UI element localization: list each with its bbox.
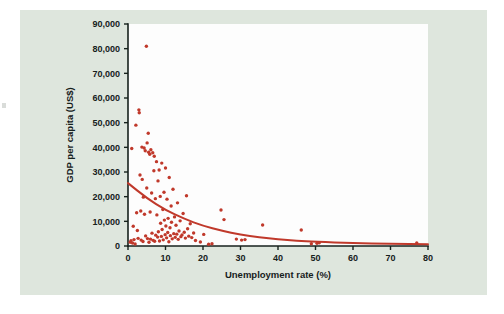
data-point: [261, 223, 264, 226]
data-point: [168, 176, 171, 179]
x-tick-label: 80: [423, 253, 433, 263]
scatter-chart: 010,00020,00030,00040,00050,00060,00070,…: [0, 0, 504, 314]
data-point: [183, 230, 186, 233]
data-point: [164, 166, 167, 169]
data-point: [132, 225, 135, 228]
data-point: [168, 226, 171, 229]
data-point: [174, 236, 177, 239]
data-point: [155, 160, 158, 163]
x-tick-label: 20: [198, 253, 208, 263]
data-point: [189, 222, 192, 225]
x-tick-label: 70: [385, 253, 395, 263]
data-point: [152, 169, 155, 172]
data-point: [165, 236, 168, 239]
data-point: [148, 210, 151, 213]
data-points: [129, 45, 419, 246]
data-point: [184, 236, 187, 239]
data-point: [222, 218, 225, 221]
data-point: [158, 239, 161, 242]
data-point: [170, 221, 173, 224]
data-point: [145, 45, 148, 48]
data-point: [135, 211, 138, 214]
data-point: [177, 229, 180, 232]
data-point: [132, 238, 135, 241]
data-point: [171, 237, 174, 240]
data-point: [137, 108, 140, 111]
x-tick-labels: 01020304050607080: [125, 253, 433, 263]
data-point: [240, 238, 243, 241]
data-point: [165, 197, 168, 200]
data-point: [185, 194, 188, 197]
y-tick-label: 10,000: [92, 217, 120, 227]
y-tick-label: 0: [115, 241, 120, 251]
data-point: [192, 231, 195, 234]
data-point: [138, 111, 141, 114]
data-point: [139, 209, 142, 212]
data-point: [166, 217, 169, 220]
y-tick-label: 50,000: [92, 118, 120, 128]
y-tick-label: 90,000: [92, 19, 120, 29]
data-point: [138, 173, 141, 176]
axis-lines: [124, 24, 428, 250]
x-tick-label: 50: [310, 253, 320, 263]
data-point: [156, 235, 159, 238]
data-point: [202, 233, 205, 236]
data-point: [145, 141, 148, 144]
data-point: [146, 237, 149, 240]
data-point: [143, 212, 146, 215]
data-point: [153, 240, 156, 243]
data-point: [219, 208, 222, 211]
data-point: [167, 240, 170, 243]
data-point: [194, 239, 197, 242]
y-tick-label: 30,000: [92, 167, 120, 177]
data-point: [160, 161, 163, 164]
data-point: [147, 241, 150, 244]
x-tick-label: 0: [125, 253, 130, 263]
data-point: [153, 155, 156, 158]
data-point: [174, 224, 177, 227]
data-point: [207, 243, 210, 246]
axis-titles: Unemployment rate (%)GDP per capita (US$…: [64, 87, 331, 280]
data-point: [180, 233, 183, 236]
data-point: [149, 148, 152, 151]
data-point: [144, 149, 147, 152]
data-point: [164, 224, 167, 227]
data-point: [163, 218, 166, 221]
data-point: [160, 228, 163, 231]
data-point: [235, 237, 238, 240]
data-point: [181, 212, 184, 215]
data-point: [130, 147, 133, 150]
data-point: [172, 232, 175, 235]
data-point: [136, 237, 139, 240]
figure-root: 010,00020,00030,00040,00050,00060,00070,…: [0, 0, 504, 314]
data-point: [160, 235, 163, 238]
data-point: [190, 236, 193, 239]
y-tick-label: 60,000: [92, 93, 120, 103]
data-point: [150, 191, 153, 194]
data-point: [150, 231, 153, 234]
data-point: [147, 132, 150, 135]
data-point: [136, 229, 139, 232]
data-point: [171, 188, 174, 191]
data-point: [156, 179, 159, 182]
x-tick-label: 10: [160, 253, 170, 263]
data-point: [157, 230, 160, 233]
data-point: [162, 191, 165, 194]
data-point: [300, 228, 303, 231]
y-tick-label: 80,000: [92, 44, 120, 54]
x-axis-title: Unemployment rate (%): [225, 269, 331, 280]
data-point: [141, 178, 144, 181]
x-tick-label: 60: [348, 253, 358, 263]
data-point: [187, 234, 190, 237]
data-point: [141, 240, 144, 243]
data-point: [159, 222, 162, 225]
data-point: [186, 227, 189, 230]
data-point: [134, 123, 137, 126]
data-point: [163, 233, 166, 236]
data-point: [155, 213, 158, 216]
data-point: [154, 197, 157, 200]
data-point: [210, 242, 213, 245]
x-tick-label: 40: [273, 253, 283, 263]
data-point: [157, 168, 160, 171]
data-point: [177, 238, 180, 241]
